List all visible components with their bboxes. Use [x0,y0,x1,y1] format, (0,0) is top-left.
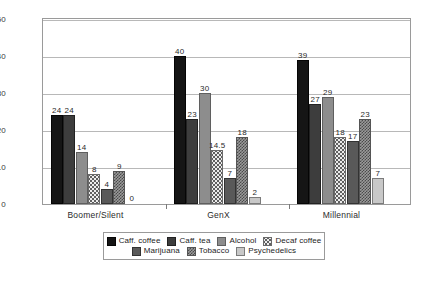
bar-value-label: 9 [117,162,122,171]
bar: 39 [297,60,309,204]
bar: 9 [113,171,125,204]
legend-swatch-icon [263,237,272,246]
x-axis-category-label: GenX [207,210,230,220]
plot-area: 242414849040233014.571823927291817237 [42,18,411,205]
legend-swatch-icon [167,237,176,246]
legend-item[interactable]: Marijuana [132,246,180,256]
y-axis-tick-label: 10 [0,163,6,172]
bar-value-label: 27 [311,95,320,104]
bar-value-label: 18 [238,128,247,137]
x-axis-separator [166,204,167,209]
bar-value-label: 17 [348,132,357,141]
bar-value-label: 29 [323,88,332,97]
bar-value-label: 39 [298,51,307,60]
x-axis-separator [289,204,290,209]
bar-value-label: 23 [188,110,197,119]
y-axis-tick-label: 30 [0,89,6,98]
bar: 29 [322,97,334,204]
bar-value-label: 2 [252,188,257,197]
bar: 23 [359,119,371,204]
x-axis-category-label: Boomer/Silent [68,210,124,220]
bar: 14 [76,152,88,204]
legend-swatch-icon [187,247,196,256]
bar: 18 [334,137,346,204]
chart-legend: Caff. coffeeCaff. teaAlcoholDecaf coffee… [103,232,325,260]
legend-row-secondary: MarijuanaTobaccoPsychedelics [108,246,320,256]
bar-value-label: 30 [200,84,209,93]
legend-item[interactable]: Psychedelics [236,246,296,256]
bar-value-label: 14.5 [209,141,225,150]
gridline [43,94,410,95]
bar: 23 [186,119,198,204]
legend-label: Marijuana [144,246,180,256]
legend-swatch-icon [236,247,245,256]
y-axis-tick-label: 0 [0,200,6,209]
gridline [43,57,410,58]
bar: 7 [224,178,236,204]
bar-value-label: 7 [227,169,232,178]
legend-swatch-icon [217,237,226,246]
y-axis-tick-label: 50 [0,15,6,24]
bar-value-label: 0 [129,194,134,203]
bar: 24 [51,115,63,204]
legend-label: Caff. tea [179,236,210,246]
legend-item[interactable]: Decaf coffee [263,236,321,246]
legend-label: Caff. coffee [119,236,161,246]
y-axis-tick-label: 40 [0,52,6,61]
legend-item[interactable]: Caff. coffee [107,236,161,246]
legend-swatch-icon [107,237,116,246]
bar-value-label: 40 [175,47,184,56]
bar: 2 [249,197,261,204]
bar: 27 [309,104,321,204]
bar: 14.5 [211,150,223,204]
legend-label: Tobacco [199,246,230,256]
bar: 18 [236,137,248,204]
bar-value-label: 24 [52,106,61,115]
bar: 17 [347,141,359,204]
legend-row-primary: Caff. coffeeCaff. teaAlcoholDecaf coffee [108,236,320,246]
bar-value-label: 4 [104,180,109,189]
bar-chart: 01020304050 242414849040233014.571823927… [0,0,425,283]
bar: 40 [174,56,186,204]
x-axis-category-label: Millennial [323,210,360,220]
bar-value-label: 18 [336,128,345,137]
bar-value-label: 8 [92,165,97,174]
bar-value-label: 24 [65,106,74,115]
legend-label: Decaf coffee [275,236,321,246]
bar: 8 [88,174,100,204]
legend-item[interactable]: Caff. tea [167,236,210,246]
bar-value-label: 7 [375,169,380,178]
bar: 7 [372,178,384,204]
bar-value-label: 23 [361,110,370,119]
legend-item[interactable]: Tobacco [187,246,230,256]
legend-swatch-icon [132,247,141,256]
legend-label: Psychedelics [248,246,296,256]
bar: 24 [63,115,75,204]
legend-label: Alcohol [229,236,256,246]
bar-value-label: 14 [77,143,86,152]
legend-item[interactable]: Alcohol [217,236,256,246]
y-axis-tick-label: 20 [0,126,6,135]
bar: 4 [101,189,113,204]
gridline [43,20,410,21]
